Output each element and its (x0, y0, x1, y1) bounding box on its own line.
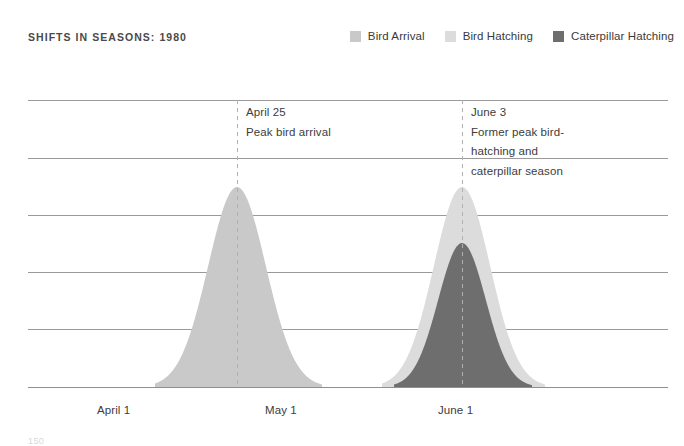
annotation-line: April 25 (246, 103, 446, 123)
chart-series-areas (155, 187, 545, 387)
x-axis-tick-label: April 1 (97, 404, 130, 416)
annotation-line: Peak bird arrival (246, 123, 446, 143)
page-number: 150 (28, 436, 44, 446)
series-area (155, 187, 322, 387)
x-axis-tick-label: May 1 (265, 404, 297, 416)
annotation-line: Former peak bird- (471, 123, 631, 143)
annotation-line: June 3 (471, 103, 631, 123)
annotation-line: hatching and (471, 142, 631, 162)
annotation-peak-bird-arrival: April 25 Peak bird arrival (246, 103, 446, 142)
x-axis-tick-label: June 1 (438, 404, 473, 416)
annotation-former-peak-hatching: June 3 Former peak bird- hatching and ca… (471, 103, 631, 181)
annotation-line: caterpillar season (471, 162, 631, 182)
